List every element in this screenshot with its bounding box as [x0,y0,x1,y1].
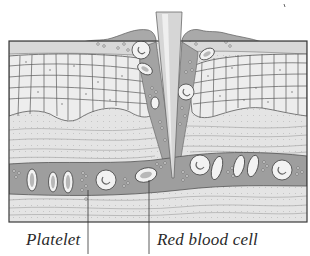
wound-cross-section-diagram [0,0,310,256]
platelet-label: Platelet [26,230,80,250]
red-blood-cell-label: Red blood cell [157,230,258,250]
speck-mark [284,4,285,7]
